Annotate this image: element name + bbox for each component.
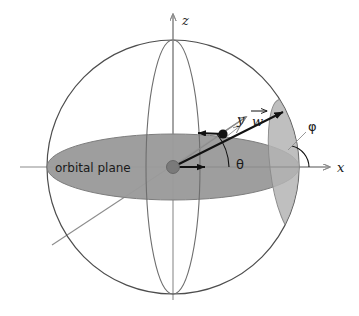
satellite-dot (218, 129, 227, 138)
x-axis-label: x (337, 160, 345, 175)
z-axis-label: z (181, 13, 189, 28)
orbital-plane-diagram: z x y w θ φ orbital plane (0, 0, 359, 316)
phi-label: φ (308, 119, 317, 134)
y-axis-label: y (236, 112, 245, 127)
diagram-canvas: z x y w θ φ orbital plane (0, 0, 359, 316)
center-dot (167, 161, 180, 174)
theta-label: θ (236, 157, 244, 172)
w-vector-label: w (252, 114, 263, 129)
orbital-plane-label: orbital plane (55, 161, 131, 175)
